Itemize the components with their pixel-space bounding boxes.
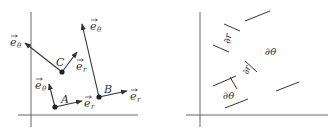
segment — [224, 24, 240, 31]
segment — [230, 77, 237, 89]
a-etheta-arrow — [49, 84, 55, 107]
svg-text:e: e — [76, 60, 83, 73]
svg-text:r: r — [91, 103, 95, 111]
point-b-label: B — [103, 83, 112, 96]
svg-text:θ: θ — [42, 85, 47, 93]
c-etheta-label: e θ — [10, 35, 22, 50]
point-c-label: C — [56, 56, 65, 69]
b-er-label: e r — [130, 89, 141, 104]
b-etheta-arrow — [82, 24, 99, 97]
svg-text:r: r — [83, 66, 87, 74]
dr-label-mid: ∂r — [240, 63, 253, 75]
svg-text:e: e — [130, 90, 137, 103]
a-er-label: e r — [84, 96, 95, 111]
svg-text:e: e — [90, 20, 97, 33]
dtheta-label-right: ∂θ — [265, 46, 276, 57]
point-c-group: C e θ e r — [10, 35, 87, 75]
point-a-label: A — [60, 93, 69, 106]
c-er-label: e r — [76, 59, 87, 74]
point-a-group: A e θ e r — [35, 78, 95, 111]
b-etheta-label: e θ — [90, 19, 102, 34]
segment — [245, 11, 270, 21]
svg-text:e: e — [84, 97, 91, 110]
right-panel: ∂r ∂θ ∂r ∂θ — [186, 11, 328, 127]
left-panel: C e θ e r B e θ — [10, 12, 141, 127]
segment — [213, 45, 229, 52]
point-c — [59, 69, 64, 74]
segment — [276, 82, 299, 91]
dtheta-label-bottom: ∂θ — [223, 90, 234, 101]
svg-text:θ: θ — [17, 42, 22, 50]
svg-text:θ: θ — [97, 26, 102, 34]
a-etheta-label: e θ — [35, 78, 47, 93]
svg-text:e: e — [10, 36, 17, 49]
svg-text:r: r — [137, 96, 141, 104]
dr-label-top: ∂r — [221, 31, 234, 44]
point-b — [96, 94, 101, 99]
point-b-group: B e θ e r — [82, 19, 141, 104]
svg-text:e: e — [35, 79, 42, 92]
point-a — [52, 104, 57, 109]
diagram-canvas: C e θ e r B e θ — [0, 0, 334, 131]
